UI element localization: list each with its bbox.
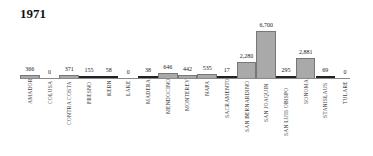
x-tick-label: MADERA [145,79,151,104]
bar [178,75,198,78]
x-tick-label: SACRAMENTO [224,78,230,118]
bar-value-label: 6,700 [254,22,278,28]
x-tick-label: LAKE [125,81,131,96]
bar [316,76,336,78]
x-tick-label: STANISLAUS [322,83,328,118]
bar-value-label: 2,280 [235,53,259,59]
x-tick-label: NAPA [204,81,210,96]
bar [237,62,257,78]
bar [197,74,217,78]
x-tick-label: MONTEREY [184,79,190,111]
x-tick-label: SAN JOAQUIN [263,83,269,121]
x-tick-label: CONTRA COSTA [66,82,72,126]
x-tick-label: TULARE [342,81,348,104]
x-tick-label: SONOMA [303,79,309,104]
bar-chart: 366AMADOR0COLUSA371CONTRA COSTA155FRESNO… [0,0,373,156]
x-tick-label: SAN BERNARDINO [244,81,250,132]
x-tick-label: MENDOCINO [165,79,171,114]
bar [138,76,158,78]
x-tick-label: FRESNO [86,81,92,103]
bar [276,76,296,78]
x-tick-label: AMADOR [27,78,33,104]
x-tick-label: COLUSA [47,80,53,103]
bar-value-label: 2,881 [294,49,318,55]
bar-value-label: 17 [215,67,239,73]
bar [79,76,99,78]
bar-value-label: 295 [274,67,298,73]
bar [158,73,178,78]
x-tick-label: SAN LUIS OBISPO [283,87,289,136]
bar-value-label: 0 [333,69,357,75]
bar [99,76,119,78]
bar [59,75,79,78]
x-tick-label: KERN [106,81,112,97]
